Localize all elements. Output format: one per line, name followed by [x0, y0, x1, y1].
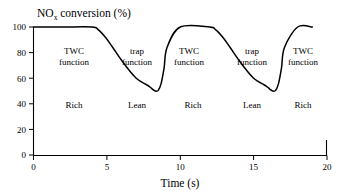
- y-tick-label-100: 100: [13, 22, 27, 32]
- trap-function-label-1: trap: [130, 46, 144, 56]
- trap-function-label-2: trap: [245, 46, 259, 56]
- y-tick-label-20: 20: [17, 125, 27, 135]
- y-tick-label-0: 0: [22, 150, 27, 160]
- trap-function-label-2-line2: function: [237, 57, 267, 67]
- twc-function-label-3: TWC: [293, 46, 313, 56]
- twc-function-label-1-line2: function: [59, 57, 89, 67]
- twc-function-label-2-line2: function: [174, 57, 204, 67]
- x-tick-label-15: 15: [249, 162, 259, 172]
- x-ticks-group: [34, 156, 328, 161]
- chart-canvas: 100 80 60 40 20 0 0 5 10 15 20 NOx conve…: [0, 0, 343, 193]
- twc-function-label-2: TWC: [179, 46, 199, 56]
- y-ticks-group: [29, 27, 34, 155]
- x-axis-title: Time (s): [161, 177, 200, 190]
- twc-function-label-3-line2: function: [288, 57, 318, 67]
- trap-function-label-1-line2: function: [122, 57, 152, 67]
- x-tick-label-5: 5: [105, 162, 110, 172]
- lean-label-2: Lean: [243, 100, 261, 110]
- x-tick-label-10: 10: [176, 162, 186, 172]
- lean-label-1: Lean: [128, 100, 146, 110]
- y-tick-labels-group: 100 80 60 40 20 0: [13, 22, 27, 160]
- x-tick-label-20: 20: [323, 162, 333, 172]
- y-tick-label-80: 80: [17, 48, 27, 58]
- rich-label-1: Rich: [66, 100, 83, 110]
- plot-title-main: NO: [37, 7, 54, 19]
- y-tick-label-60: 60: [17, 74, 27, 84]
- plot-title-group: NOx conversion (%): [37, 7, 131, 22]
- twc-function-label-1: TWC: [64, 46, 84, 56]
- nox-conversion-figure: 100 80 60 40 20 0 0 5 10 15 20 NOx conve…: [0, 0, 343, 193]
- plot-title-rest: conversion (%): [57, 7, 131, 20]
- x-tick-labels-group: 0 5 10 15 20: [31, 162, 332, 172]
- plot-title: NOx conversion (%): [37, 7, 131, 22]
- x-tick-label-0: 0: [31, 162, 36, 172]
- y-tick-label-40: 40: [17, 99, 27, 109]
- rich-label-3: Rich: [295, 100, 312, 110]
- rich-label-2: Rich: [185, 100, 202, 110]
